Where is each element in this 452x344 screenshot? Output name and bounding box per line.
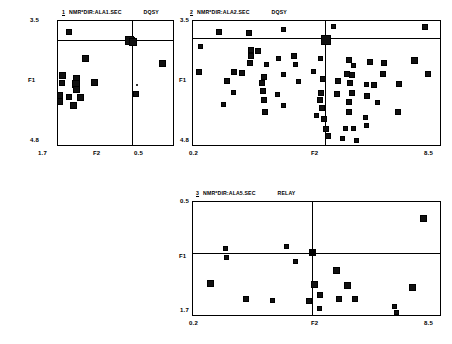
panel-3-plot-area[interactable] <box>192 201 441 316</box>
peak-marker[interactable] <box>248 47 254 53</box>
peak-marker[interactable] <box>198 44 203 49</box>
peak-marker[interactable] <box>91 79 98 86</box>
peak-marker[interactable] <box>336 296 342 302</box>
cursor-marker[interactable] <box>309 249 316 256</box>
peak-marker[interactable] <box>352 296 358 302</box>
cursor-horizontal-line[interactable] <box>58 40 173 41</box>
peak-marker[interactable] <box>246 30 252 36</box>
peak-marker[interactable] <box>311 69 316 74</box>
peak-marker[interactable] <box>325 133 331 139</box>
peak-marker[interactable] <box>333 267 340 274</box>
peak-marker[interactable] <box>381 60 387 66</box>
cursor-horizontal-line[interactable] <box>193 38 440 39</box>
peak-marker[interactable] <box>59 72 66 79</box>
peak-marker[interactable] <box>77 94 84 101</box>
peak-marker[interactable] <box>66 29 72 35</box>
peak-marker[interactable] <box>275 92 280 97</box>
cursor-horizontal-line[interactable] <box>193 253 440 254</box>
peak-marker[interactable] <box>364 93 370 99</box>
peak-marker[interactable] <box>259 80 265 86</box>
peak-marker[interactable] <box>281 103 286 108</box>
peak-marker[interactable] <box>223 246 228 251</box>
peak-marker[interactable] <box>66 94 72 100</box>
peak-marker[interactable] <box>331 24 336 29</box>
peak-marker[interactable] <box>344 282 351 289</box>
peak-marker[interactable] <box>281 27 286 32</box>
panel-2-plot-area[interactable] <box>192 20 441 146</box>
peak-marker[interactable] <box>224 78 230 84</box>
peak-marker[interactable] <box>317 292 323 298</box>
peak-marker[interactable] <box>264 62 269 67</box>
peak-marker[interactable] <box>247 60 253 66</box>
peak-marker[interactable] <box>323 126 329 132</box>
peak-marker[interactable] <box>260 88 266 94</box>
peak-marker[interactable] <box>354 138 359 143</box>
peak-marker[interactable] <box>317 97 323 103</box>
peak-marker[interactable] <box>340 136 345 141</box>
peak-marker[interactable] <box>281 72 286 77</box>
peak-marker[interactable] <box>363 115 368 120</box>
peak-marker[interactable] <box>129 38 137 46</box>
peak-marker[interactable] <box>394 310 399 315</box>
peak-marker[interactable] <box>291 53 297 59</box>
peak-marker[interactable] <box>371 82 377 88</box>
peak-marker[interactable] <box>396 81 402 87</box>
peak-marker[interactable] <box>334 91 340 97</box>
peak-marker[interactable] <box>248 53 254 59</box>
peak-marker[interactable] <box>347 80 353 86</box>
peak-marker[interactable] <box>321 116 327 122</box>
peak-marker[interactable] <box>231 90 236 95</box>
peak-marker[interactable] <box>207 280 214 287</box>
peak-marker[interactable] <box>243 296 249 302</box>
peak-marker[interactable] <box>349 72 355 78</box>
peak-marker[interactable] <box>346 109 352 115</box>
peak-marker[interactable] <box>276 56 281 61</box>
peak-marker[interactable] <box>375 100 380 105</box>
peak-marker[interactable] <box>409 284 416 291</box>
peak-marker[interactable] <box>306 298 312 304</box>
peak-marker[interactable] <box>59 80 65 86</box>
peak-marker[interactable] <box>425 71 431 77</box>
peak-marker[interactable] <box>346 57 352 63</box>
peak-marker[interactable] <box>293 259 298 264</box>
peak-marker[interactable] <box>317 306 322 311</box>
peak-marker[interactable] <box>411 57 418 64</box>
peak-marker[interactable] <box>57 98 63 105</box>
peak-marker[interactable] <box>346 99 352 105</box>
peak-marker[interactable] <box>73 86 80 93</box>
panel-1-plot-area[interactable] <box>57 20 174 146</box>
peak-marker[interactable] <box>239 70 245 76</box>
peak-marker[interactable] <box>349 90 355 96</box>
peak-marker[interactable] <box>335 78 341 84</box>
peak-marker[interactable] <box>293 62 298 67</box>
peak-marker[interactable] <box>255 48 261 54</box>
peak-marker[interactable] <box>221 102 226 107</box>
peak-marker[interactable] <box>364 82 369 87</box>
peak-marker[interactable] <box>351 126 356 131</box>
peak-marker[interactable] <box>422 24 428 30</box>
peak-marker[interactable] <box>82 55 89 62</box>
peak-marker[interactable] <box>319 105 325 111</box>
peak-marker[interactable] <box>224 255 229 260</box>
peak-marker[interactable] <box>321 35 331 45</box>
peak-marker[interactable] <box>284 244 289 249</box>
peak-marker[interactable] <box>320 76 326 82</box>
peak-marker[interactable] <box>392 304 397 309</box>
peak-marker[interactable] <box>262 109 268 115</box>
peak-marker[interactable] <box>231 69 237 75</box>
peak-marker[interactable] <box>261 97 267 103</box>
peak-marker[interactable] <box>420 215 427 222</box>
peak-marker[interactable] <box>364 123 369 128</box>
peak-marker[interactable] <box>196 69 202 75</box>
peak-marker[interactable] <box>367 59 373 65</box>
peak-marker[interactable] <box>380 71 386 77</box>
peak-marker[interactable] <box>216 29 222 35</box>
peak-marker[interactable] <box>311 281 318 288</box>
peak-marker[interactable] <box>318 56 323 61</box>
peak-marker[interactable] <box>318 90 324 96</box>
peak-marker[interactable] <box>159 60 166 67</box>
peak-marker[interactable] <box>314 113 319 118</box>
peak-marker[interactable] <box>395 109 401 115</box>
cursor-vertical-line[interactable] <box>312 202 313 315</box>
peak-marker[interactable] <box>343 126 348 131</box>
